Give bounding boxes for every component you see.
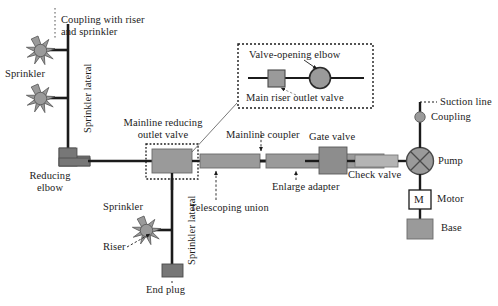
diagram-vector-layer [0,0,498,306]
label-telescoping-union: Telescoping union [190,202,269,214]
label-sprinkler-upper: Sprinkler [5,68,45,80]
inset-title-leader [304,60,317,69]
mainline-pipe-segment-1 [200,154,260,168]
label-end-plug: End plug [146,284,185,296]
base-block [407,219,433,239]
end-plug-block [162,264,183,277]
label-motor-symbol: M [414,193,424,205]
label-inset-title: Valve-opening elbow [249,49,340,61]
inset-main-riser-outlet-valve-block [268,70,285,87]
label-mainline-coupler: Mainline coupler [226,129,300,141]
label-coupling-with-riser: Coupling with riser and sprinkler [61,14,145,38]
label-enlarge-adapter: Enlarge adapter [272,181,339,193]
label-inset-caption: Main riser outlet valve [246,92,344,104]
sprinkler-icon-lower-1 [132,216,161,245]
gate-valve-block [319,147,347,174]
label-motor: Motor [437,193,464,205]
label-riser: Riser [103,241,126,253]
mainline-reducing-outlet-valve-block [152,149,192,173]
sprinkler-icon-upper-2 [26,84,55,113]
pump-symbol [407,148,434,175]
label-coupling: Coupling [431,111,471,123]
coupling-symbol [415,112,425,122]
label-suction-line: Suction line [440,96,492,108]
label-mainline-reducing-outlet-valve: Mainline reducing outlet valve [118,117,208,141]
label-gate-valve: Gate valve [309,131,355,143]
label-pump: Pump [438,155,463,167]
label-sprinkler-lateral-lower: Sprinkler lateral [186,195,198,265]
label-sprinkler-lateral-upper: Sprinkler lateral [82,63,94,133]
label-check-valve: Check valve [348,169,401,181]
irrigation-system-diagram: Coupling with riser and sprinkler Sprink… [0,0,498,306]
reducing-elbow-foot [59,158,90,166]
label-sprinkler-lower: Sprinkler [103,201,143,213]
inset-valve-opening-elbow-circle [310,68,331,89]
label-base: Base [441,222,462,234]
label-reducing-elbow: Reducing elbow [19,170,81,194]
sprinkler-icon-upper-1 [26,36,55,65]
check-valve-block [355,155,398,167]
